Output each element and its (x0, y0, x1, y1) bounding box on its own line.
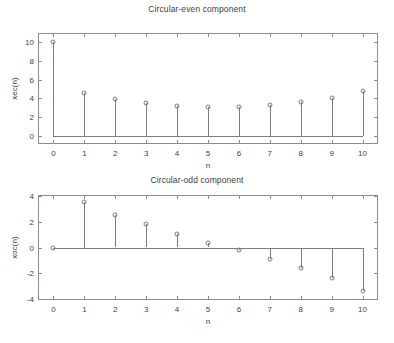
y-axis-label: xec(n) (10, 69, 19, 109)
y-axis-tick (38, 273, 42, 274)
x-axis-tick-top (177, 195, 178, 199)
x-axis-tick-top (332, 33, 333, 37)
stem-line (363, 91, 364, 136)
stem-line (146, 224, 147, 247)
x-axis-tick-label: 8 (298, 149, 302, 158)
y-axis-tick-label: 2 (12, 217, 34, 226)
data-point-marker (329, 95, 334, 100)
y-axis-tick (38, 98, 42, 99)
y-axis-tick (38, 222, 42, 223)
y-axis-tick-right (374, 42, 378, 43)
data-point-marker (298, 266, 303, 271)
x-axis-tick (115, 296, 116, 300)
x-axis-tick (146, 296, 147, 300)
stem-line (301, 102, 302, 136)
data-point-marker (51, 245, 56, 250)
y-axis-tick (38, 136, 42, 137)
x-axis-tick-top (363, 195, 364, 199)
x-axis-tick (301, 296, 302, 300)
x-axis-tick (270, 140, 271, 144)
x-axis-tick (239, 296, 240, 300)
x-axis-label: n (206, 317, 210, 326)
data-point-marker (298, 100, 303, 105)
stem-line (332, 98, 333, 136)
y-axis-tick-right (374, 273, 378, 274)
data-point-marker (267, 103, 272, 108)
data-point-marker (360, 288, 365, 293)
data-point-marker (144, 101, 149, 106)
x-axis-tick-label: 3 (144, 149, 148, 158)
stem-line (239, 107, 240, 136)
stem-line (53, 42, 54, 136)
y-axis-tick (38, 80, 42, 81)
y-axis-tick (38, 299, 42, 300)
data-point-marker (267, 257, 272, 262)
x-axis-tick-label: 0 (51, 149, 55, 158)
x-axis-tick-label: 6 (237, 305, 241, 314)
x-axis-tick (177, 140, 178, 144)
data-point-marker (236, 248, 241, 253)
x-axis-tick-label: 5 (206, 305, 210, 314)
y-axis-tick-right (374, 196, 378, 197)
x-axis-tick (146, 140, 147, 144)
x-axis-tick-top (208, 33, 209, 37)
x-axis-tick-top (301, 33, 302, 37)
x-axis-tick-top (84, 195, 85, 199)
x-axis-tick (208, 140, 209, 144)
x-axis-tick (208, 296, 209, 300)
x-axis-tick-top (115, 33, 116, 37)
data-point-marker (175, 103, 180, 108)
y-axis-tick-right (374, 299, 378, 300)
x-axis-tick-top (239, 33, 240, 37)
data-point-marker (206, 240, 211, 245)
data-point-marker (329, 276, 334, 281)
data-point-marker (360, 89, 365, 94)
data-point-marker (175, 231, 180, 236)
x-axis-tick (53, 140, 54, 144)
data-point-marker (82, 200, 87, 205)
y-axis-tick-right (374, 136, 378, 137)
y-axis-tick-label: -4 (12, 295, 34, 304)
x-axis-tick (301, 140, 302, 144)
x-axis-tick-label: 2 (113, 305, 117, 314)
stem-line (84, 202, 85, 247)
y-axis-tick-label: 8 (12, 56, 34, 65)
x-axis-tick-top (53, 195, 54, 199)
chart-title-even: Circular-even component (0, 4, 394, 14)
x-axis-tick-top (53, 33, 54, 37)
x-axis-tick-label: 7 (268, 149, 272, 158)
x-axis-tick-label: 1 (82, 149, 86, 158)
stem-line (115, 99, 116, 136)
x-axis-tick (332, 140, 333, 144)
x-axis-tick-label: 0 (51, 305, 55, 314)
y-axis-tick-right (374, 80, 378, 81)
y-axis-tick-right (374, 117, 378, 118)
y-axis-tick-label: 10 (12, 38, 34, 47)
data-point-marker (236, 105, 241, 110)
y-axis-tick (38, 117, 42, 118)
y-axis-tick-label: -2 (12, 269, 34, 278)
x-axis-tick (363, 140, 364, 144)
stem-line (115, 215, 116, 248)
subplot-circular-odd: Circular-odd component -4-20240123456789… (0, 171, 394, 343)
stem-line (270, 105, 271, 136)
y-axis-tick-label: 0 (12, 132, 34, 141)
stem-line (332, 248, 333, 279)
x-axis-tick-label: 5 (206, 149, 210, 158)
x-axis-tick-top (332, 195, 333, 199)
x-axis-tick-top (146, 33, 147, 37)
y-axis-tick-right (374, 248, 378, 249)
x-axis-tick-top (270, 33, 271, 37)
stem-line (363, 248, 364, 291)
x-axis-tick-label: 9 (329, 149, 333, 158)
x-axis-tick-label: 6 (237, 149, 241, 158)
data-point-marker (113, 96, 118, 101)
x-axis-tick-label: 4 (175, 305, 179, 314)
x-axis-tick-top (115, 195, 116, 199)
y-axis-tick-label: 4 (12, 192, 34, 201)
x-axis-tick-top (301, 195, 302, 199)
x-axis-tick (53, 296, 54, 300)
y-axis-tick-right (374, 61, 378, 62)
x-axis-tick (84, 140, 85, 144)
x-axis-tick-top (177, 33, 178, 37)
